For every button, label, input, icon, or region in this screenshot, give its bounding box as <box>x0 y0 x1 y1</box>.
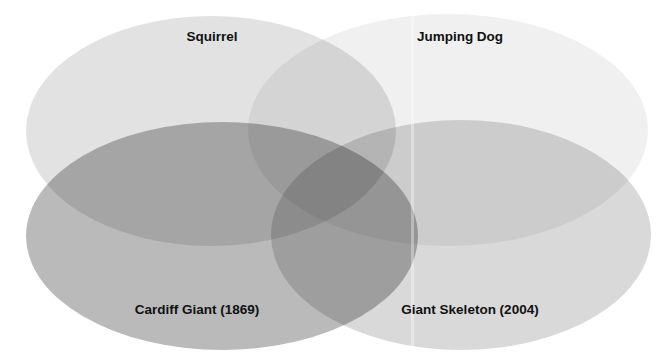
scan-seam <box>411 14 414 350</box>
label-cardiff-giant: Cardiff Giant (1869) <box>135 302 260 317</box>
label-jumping-dog: Jumping Dog <box>417 29 503 44</box>
label-giant-skeleton: Giant Skeleton (2004) <box>401 302 538 317</box>
label-squirrel: Squirrel <box>186 29 237 44</box>
venn-diagram <box>0 0 672 364</box>
